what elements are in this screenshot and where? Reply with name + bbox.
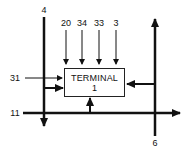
terminal-number: 1 (92, 83, 97, 93)
label-line-11: 11 (10, 108, 19, 118)
label-line-4: 4 (41, 5, 46, 15)
label-input-34: 34 (77, 18, 87, 28)
label-input-33: 33 (94, 18, 104, 28)
label-line-6: 6 (152, 138, 157, 148)
label-input-3: 3 (113, 18, 118, 28)
label-input-20: 20 (61, 18, 71, 28)
terminal-box: TERMINAL 1 (64, 68, 125, 97)
label-line-31: 31 (10, 73, 20, 83)
terminal-title: TERMINAL (71, 73, 118, 83)
